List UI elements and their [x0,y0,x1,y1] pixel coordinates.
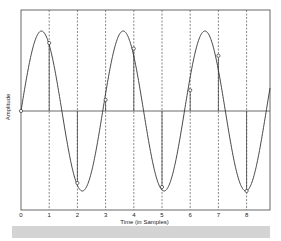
plot-border [21,10,270,210]
sample-marker [189,89,192,92]
sample-marker [217,54,220,57]
sample-marker [76,181,79,184]
x-tick-labels: 012345678 [19,212,249,218]
plot-frame [21,10,270,210]
sample-marker [104,98,107,101]
sample-marker [132,47,135,50]
x-tick-label: 6 [189,212,193,218]
sample-marker [245,189,248,192]
x-tick-label: 8 [245,212,249,218]
sample-gridlines [49,10,246,210]
x-tick-label: 4 [132,212,136,218]
bottom-bar [12,226,270,238]
sine-sampling-chart: 012345678 [0,0,281,241]
x-axis-label: Time (in Samples) [0,219,281,225]
sample-marker [48,41,51,44]
x-tick-label: 7 [217,212,221,218]
y-axis-label: Amplitude [5,89,11,125]
x-tick-label: 5 [160,212,164,218]
x-tick-label: 0 [19,212,23,218]
x-tick-label: 2 [76,212,80,218]
x-tick-label: 3 [104,212,108,218]
sample-marker [160,185,163,188]
x-tick-label: 1 [48,212,52,218]
sample-marker [19,109,22,112]
